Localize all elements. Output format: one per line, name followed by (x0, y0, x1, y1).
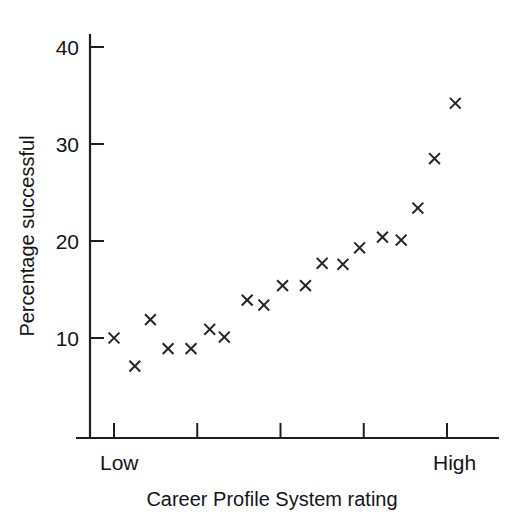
axes-group (76, 34, 499, 438)
data-point (429, 153, 440, 164)
data-point (354, 242, 365, 253)
y-tick-label-30: 30 (56, 133, 79, 156)
data-point (129, 361, 140, 372)
data-point (186, 343, 197, 354)
data-point (450, 98, 461, 109)
y-tick-labels-group: 10203040 (56, 36, 79, 350)
y-axis-title: Percentage successful (16, 135, 38, 336)
y-tick-label-40: 40 (56, 36, 79, 59)
x-axis-title: Career Profile System rating (146, 488, 397, 510)
x-category-labels-group: LowHigh (100, 451, 476, 474)
data-point (219, 332, 230, 343)
data-point (300, 280, 311, 291)
plot-canvas: 10203040 LowHigh Career Profile System r… (0, 0, 526, 531)
data-point (277, 280, 288, 291)
data-point (377, 232, 388, 243)
x-category-label-low: Low (100, 451, 139, 474)
x-ticks-group (114, 423, 447, 438)
data-point (258, 300, 269, 311)
x-category-label-high: High (433, 451, 476, 474)
data-point (109, 333, 120, 344)
data-point (242, 295, 253, 306)
data-points-group (109, 98, 461, 372)
data-point (396, 235, 407, 246)
data-point (317, 258, 328, 269)
data-point (204, 324, 215, 335)
data-point (412, 203, 423, 214)
y-tick-label-20: 20 (56, 230, 79, 253)
scatter-plot-figure: 10203040 LowHigh Career Profile System r… (0, 0, 526, 531)
data-point (163, 343, 174, 354)
data-point (145, 314, 156, 325)
y-ticks-group (90, 47, 104, 338)
y-tick-label-10: 10 (56, 327, 79, 350)
data-point (338, 259, 349, 270)
